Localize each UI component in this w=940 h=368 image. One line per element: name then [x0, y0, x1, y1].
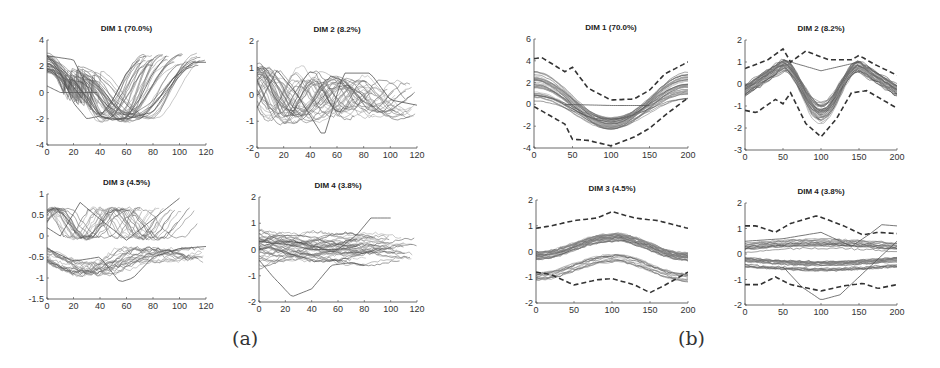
- y-tick-label: 0: [251, 245, 256, 255]
- envelope-lower-dashed-line: [536, 272, 688, 293]
- y-tick-label: 4: [39, 35, 44, 45]
- envelope-upper-dashed-line: [536, 212, 688, 229]
- subplot-a-dim2: DIM 2 (8.2%)020406080100120-2-1012: [246, 25, 425, 160]
- subplot-b-dim4: DIM 4 (3.8%)050100150200-2-1012: [734, 187, 905, 317]
- x-tick-label: 50: [567, 150, 577, 160]
- x-tick-label: 60: [332, 150, 342, 160]
- panels: DIM 1 (70.0%)020406080100120-4-2024DIM 2…: [28, 23, 904, 317]
- x-tick-label: 80: [359, 304, 369, 314]
- y-tick-label: 1: [39, 189, 44, 199]
- x-tick-label: 100: [172, 301, 187, 311]
- y-tick-label: 1: [249, 63, 254, 73]
- x-tick-label: 0: [44, 147, 49, 157]
- x-tick-label: 0: [533, 305, 538, 315]
- x-tick-label: 100: [604, 305, 619, 315]
- subplot-title: DIM 4 (3.8%): [314, 181, 361, 190]
- x-tick-label: 120: [198, 301, 213, 311]
- y-tick-label: 0: [737, 79, 742, 89]
- subplot-title: DIM 2 (8.2%): [313, 25, 360, 34]
- trajectory-bundle: [259, 218, 417, 296]
- x-tick-label: 100: [603, 150, 618, 160]
- x-tick-label: 40: [95, 301, 105, 311]
- trajectory-bundle: [534, 58, 688, 146]
- trajectory-bundle: [745, 49, 897, 137]
- y-tick-label: -2: [248, 297, 256, 307]
- x-tick-label: 40: [305, 150, 315, 160]
- y-tick-label: -1: [525, 272, 533, 282]
- x-tick-label: 100: [383, 304, 398, 314]
- x-tick-label: 50: [778, 307, 788, 317]
- y-tick-label: 0: [39, 231, 44, 241]
- x-tick-label: 120: [198, 147, 213, 157]
- subplot-a-dim4: DIM 4 (3.8%)020406080100120-2-1012: [248, 181, 425, 314]
- y-tick-label: 0: [39, 88, 44, 98]
- y-tick-label: 2: [737, 35, 742, 45]
- trajectory-bundle: [745, 216, 897, 299]
- x-tick-label: 80: [359, 150, 369, 160]
- x-tick-label: 50: [569, 305, 579, 315]
- y-tick-label: 0: [528, 247, 533, 257]
- y-tick-label: -0.5: [28, 252, 44, 262]
- x-tick-label: 120: [409, 150, 424, 160]
- x-tick-label: 50: [778, 152, 788, 162]
- x-tick-label: 60: [333, 304, 343, 314]
- caption-a: (a): [232, 327, 258, 349]
- x-tick-label: 20: [280, 304, 290, 314]
- y-tick-label: 1: [528, 221, 533, 231]
- trajectory-bundle: [536, 212, 688, 293]
- y-tick-label: -2: [523, 121, 531, 131]
- y-tick-label: 6: [526, 34, 531, 44]
- y-tick-label: 2: [737, 198, 742, 208]
- y-tick-label: 1: [737, 57, 742, 67]
- subplot-title: DIM 1 (70.0%): [101, 24, 153, 33]
- x-tick-label: 150: [851, 152, 866, 162]
- trajectory-bundle: [257, 63, 417, 133]
- x-tick-label: 20: [68, 301, 78, 311]
- y-tick-label: -1: [246, 116, 254, 126]
- y-tick-label: 2: [528, 195, 533, 205]
- y-tick-label: 0: [737, 249, 742, 259]
- y-tick-label: -3: [734, 145, 742, 155]
- y-tick-label: 2: [526, 78, 531, 88]
- subplot-title: DIM 1 (70.0%): [585, 23, 637, 32]
- x-tick-label: 100: [813, 307, 828, 317]
- x-tick-label: 80: [148, 301, 158, 311]
- subplot-b-dim2: DIM 2 (8.2%)050100150200-3-2-1012: [734, 24, 905, 162]
- subplot-a-dim3: DIM 3 (4.5%)020406080100120-1.5-1-0.500.…: [28, 178, 213, 311]
- y-tick-label: -2: [36, 114, 44, 124]
- y-tick-label: 2: [251, 192, 256, 202]
- y-tick-label: -1: [734, 275, 742, 285]
- y-tick-label: 0.5: [31, 210, 44, 220]
- x-tick-label: 120: [409, 304, 424, 314]
- y-tick-label: 1: [737, 224, 742, 234]
- x-tick-label: 80: [148, 147, 158, 157]
- y-tick-label: 0: [526, 99, 531, 109]
- x-tick-label: 0: [254, 150, 259, 160]
- x-tick-label: 0: [742, 307, 747, 317]
- x-tick-label: 20: [279, 150, 289, 160]
- y-tick-label: 0: [249, 90, 254, 100]
- x-tick-label: 0: [256, 304, 261, 314]
- x-tick-label: 0: [742, 152, 747, 162]
- envelope-lower-dashed-line: [745, 277, 897, 291]
- x-tick-label: 150: [642, 305, 657, 315]
- x-tick-label: 40: [307, 304, 317, 314]
- y-tick-label: 1: [251, 218, 256, 228]
- figure-canvas: DIM 1 (70.0%)020406080100120-4-2024DIM 2…: [0, 0, 940, 368]
- x-tick-label: 40: [95, 147, 105, 157]
- y-tick-label: 2: [39, 61, 44, 71]
- x-tick-label: 200: [889, 307, 904, 317]
- y-tick-label: -2: [246, 143, 254, 153]
- x-tick-label: 100: [172, 147, 187, 157]
- x-tick-label: 200: [680, 150, 695, 160]
- x-tick-label: 200: [889, 152, 904, 162]
- y-tick-label: -2: [525, 298, 533, 308]
- subplot-title: DIM 4 (3.8%): [797, 187, 844, 196]
- y-tick-label: -1: [734, 101, 742, 111]
- y-tick-label: -1: [36, 273, 44, 283]
- y-tick-label: -4: [36, 140, 44, 150]
- y-tick-label: 4: [526, 56, 531, 66]
- x-tick-label: 20: [68, 147, 78, 157]
- x-tick-label: 60: [121, 301, 131, 311]
- x-tick-label: 60: [121, 147, 131, 157]
